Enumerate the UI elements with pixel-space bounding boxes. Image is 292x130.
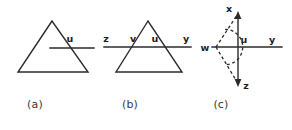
caption-a: (a) — [15, 98, 55, 111]
arrowhead-z-icon — [235, 79, 242, 87]
vertex-label-u-c: u — [241, 34, 248, 45]
vertex-label-w-c: w — [201, 42, 210, 53]
vertex-label-z-c: z — [243, 80, 249, 91]
vertex-label-y-c: y — [269, 34, 276, 45]
vertex-label-x-c: x — [226, 3, 232, 14]
figure-root: u z v u y x w u y z (a) (b) (c) — [0, 0, 292, 130]
caption-c: (c) — [201, 98, 241, 111]
caption-b: (b) — [110, 98, 150, 111]
dashed-line-w-x — [216, 16, 237, 47]
dashed-line-w-z — [216, 47, 237, 81]
